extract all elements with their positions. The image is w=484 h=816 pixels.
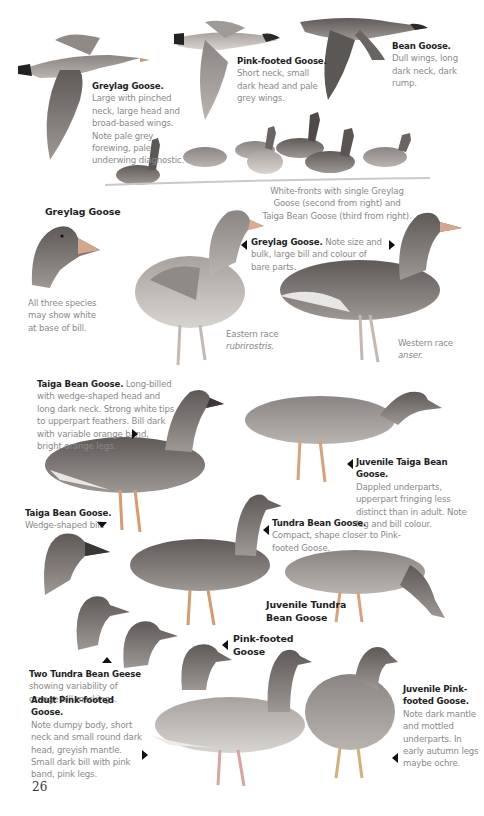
caption-flying-pinkfooted: Pink-footed Goose. Short neck, small dar… [237,55,329,105]
caption-greylag-head: All three species may show white at base… [28,297,102,334]
pointer-up-arrow-icon [102,657,112,663]
caption-flying-bean: Bean Goose. Dull wings, long dark neck, … [392,40,458,90]
pointer-right-arrow-icon [132,429,138,439]
caption-taiga-head: Taiga Bean Goose. Wedge-shaped bill. [25,507,115,532]
caption-flock: White-fronts with single Greylag Goose (… [262,185,412,222]
two-tundra-bean-heads-illustration [77,596,178,668]
greylag-head-illustration [32,226,100,288]
caption-western-race: Western race anser. [398,337,458,362]
pointer-left-arrow-icon [222,640,228,650]
caption-greylag-standing: Greylag Goose. Note size and bulk, large… [251,236,387,273]
pointer-left-arrow-icon [241,240,247,250]
pointer-right-arrow-icon [142,750,148,760]
taiga-bean-head-illustration [44,534,110,595]
title-juvenile-tundra-bean: Juvenile Tundra Bean Goose [266,598,346,624]
caption-juvenile-pinkfooted: Juvenile Pink- footed Goose. Note dark m… [403,683,479,770]
pointer-right-arrow-icon [389,240,395,250]
caption-adult-pinkfooted: Adult Pink-footed Goose. Note dumpy body… [31,694,143,781]
pinkfooted-head-illustration [181,644,232,690]
caption-flying-greylag: Greylag Goose. Large with pinched neck, … [92,80,188,167]
pointer-down-arrow-icon [97,522,107,528]
caption-eastern-race: Eastern race rubrirostris. [226,328,286,353]
caption-taiga-bean: Taiga Bean Goose. Long-billed with wedge… [37,378,175,452]
juvenile-pinkfooted-goose-illustration [305,647,398,778]
pointer-left-arrow-icon [263,525,269,535]
title-greylag-head: Greylag Goose [45,205,121,218]
field-guide-page: Greylag Goose. Large with pinched neck, … [0,0,484,816]
pointer-left-arrow-icon [347,459,353,469]
page-number: 26 [32,780,47,794]
tundra-bean-goose-illustration [130,494,282,625]
adult-pinkfooted-goose-illustration [150,650,312,786]
caption-tundra-bean: Tundra Bean Goose. Compact, shape closer… [272,517,404,554]
pointer-left-arrow-icon [392,753,398,763]
title-pinkfooted-head: Pink-footed Goose [233,632,293,658]
